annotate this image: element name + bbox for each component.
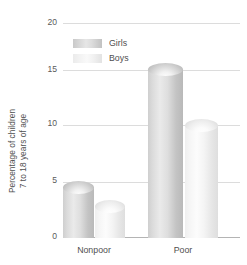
legend-label-boys: Boys <box>109 54 129 63</box>
legend-label-girls: Girls <box>109 39 127 48</box>
y-tick-label-15: 15 <box>33 65 57 74</box>
y-tick-label-10: 10 <box>33 119 57 128</box>
y-axis-title-line-1: Percentage of children <box>7 109 18 193</box>
bar-poor-girls <box>148 69 183 238</box>
bar-nonpoor-boys <box>95 206 125 238</box>
bar-body <box>148 69 183 238</box>
bar-body <box>185 125 218 238</box>
bar-top-ellipse <box>148 63 183 76</box>
bar-body <box>63 187 94 238</box>
y-tick-label-5: 5 <box>33 176 57 185</box>
legend-item-boys: Boys <box>73 51 129 66</box>
chart-legend: Girls Boys <box>73 36 129 66</box>
x-tick-label-nonpoor: Nonpoor <box>63 245 125 255</box>
bar-top-ellipse <box>95 200 125 213</box>
y-axis-title: Percentage of children 7 to 18 years of … <box>0 72 36 230</box>
y-axis-title-line-2: 7 to 18 years of age <box>18 109 29 193</box>
x-tick-label-poor: Poor <box>148 245 218 255</box>
bar-chart: Percentage of children 7 to 18 years of … <box>0 0 247 265</box>
boys-legend-swatch-icon <box>73 54 102 63</box>
girls-legend-swatch-icon <box>73 39 102 48</box>
legend-item-girls: Girls <box>73 36 129 51</box>
y-tick-label-0: 0 <box>33 232 57 241</box>
bar-nonpoor-girls <box>63 187 94 238</box>
bar-top-ellipse <box>63 181 94 194</box>
bar-top-ellipse <box>185 119 218 132</box>
bar-poor-boys <box>185 125 218 238</box>
y-tick-label-20: 20 <box>33 18 57 27</box>
gridline-20 <box>63 23 240 24</box>
